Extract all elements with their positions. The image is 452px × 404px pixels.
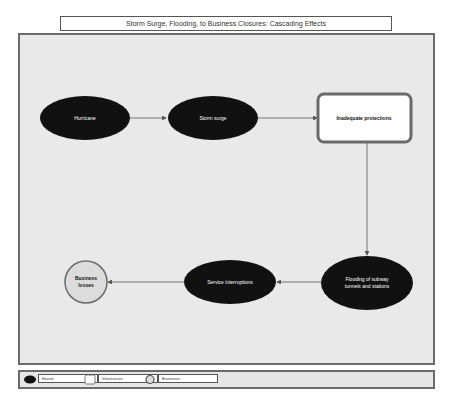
node-inadequate-protections[interactable]: Inadequate protections [318, 94, 411, 142]
node-flooding-label-line2: tunnels and stations [345, 283, 390, 289]
node-hurricane-label: Hurricane [74, 115, 96, 121]
legend-businesses-label: Businesses [158, 374, 218, 383]
node-storm-surge-label: Storm surge [199, 115, 226, 121]
node-hurricane[interactable]: Hurricane [40, 96, 130, 140]
flow-diagram: Hurricane Storm surge Inadequate protect… [0, 0, 452, 404]
legend: Hazard Infrastructure Businesses [18, 370, 435, 389]
node-business-losses-label-line2: losses [78, 282, 94, 288]
node-service-interruptions[interactable]: Service interruptions [184, 260, 276, 304]
node-flooding-label-line1: Flooding of subway [345, 276, 389, 282]
node-inadequate-protections-label: Inadequate protections [336, 115, 391, 121]
node-business-losses[interactable]: Business losses [65, 261, 107, 303]
node-service-interruptions-label: Service interruptions [207, 279, 253, 285]
legend-hazard-ellipse-icon [23, 374, 37, 385]
legend-infrastructure-square-icon [84, 374, 96, 385]
legend-businesses-circle-icon [144, 374, 156, 385]
node-storm-surge[interactable]: Storm surge [168, 96, 258, 140]
node-business-losses-label-line1: Business [75, 275, 97, 281]
node-flooding[interactable]: Flooding of subway tunnels and stations [321, 256, 413, 310]
